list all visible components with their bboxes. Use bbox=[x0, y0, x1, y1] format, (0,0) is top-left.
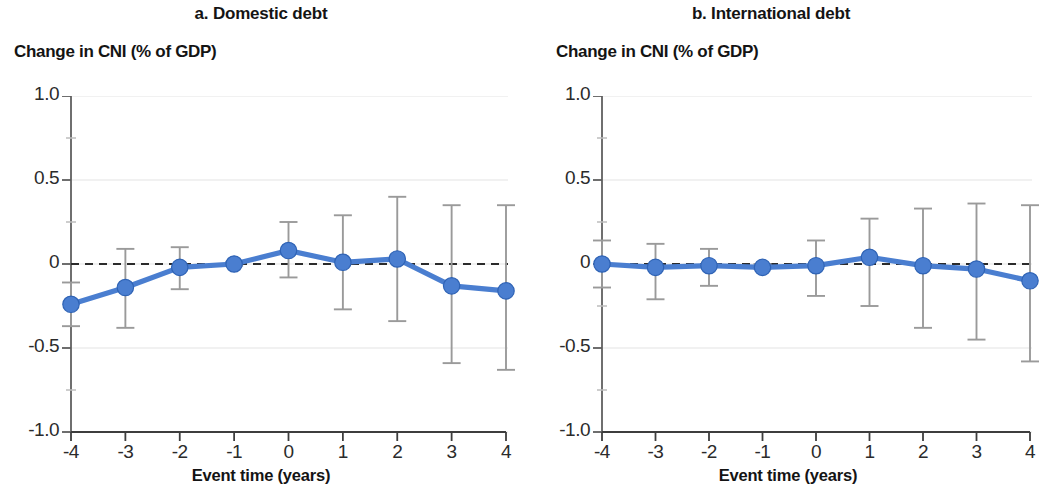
x-tick-label: -1 bbox=[741, 441, 785, 463]
data-point-marker bbox=[754, 259, 770, 275]
y-tick-label: 1.0 bbox=[532, 83, 590, 105]
data-point-marker bbox=[389, 251, 405, 267]
x-tick-label: -3 bbox=[103, 441, 147, 463]
x-tick-label: 1 bbox=[321, 441, 365, 463]
y-tick-label: 0.5 bbox=[1, 167, 59, 189]
y-tick-label: -0.5 bbox=[532, 335, 590, 357]
x-tick-label: -4 bbox=[49, 441, 93, 463]
x-tick-label: -2 bbox=[687, 441, 731, 463]
data-point-marker bbox=[861, 249, 877, 265]
y-tick-label: 0.5 bbox=[532, 167, 590, 189]
data-point-marker bbox=[968, 261, 984, 277]
x-tick-label: -4 bbox=[580, 441, 624, 463]
x-tick-label: 3 bbox=[955, 441, 999, 463]
data-point-marker bbox=[701, 257, 717, 273]
x-tick-label: 1 bbox=[848, 441, 892, 463]
x-tick-label: 2 bbox=[901, 441, 945, 463]
data-point-marker bbox=[226, 256, 242, 272]
data-point-marker bbox=[117, 279, 133, 295]
data-point-marker bbox=[443, 278, 459, 294]
y-tick-label: -0.5 bbox=[1, 335, 59, 357]
y-tick-label: -1.0 bbox=[1, 419, 59, 441]
panel-b-title: b. International debt bbox=[521, 4, 1043, 24]
panel-a-xaxis-label: Event time (years) bbox=[0, 466, 522, 485]
panel-domestic-debt: a. Domestic debt Change in CNI (% of GDP… bbox=[0, 0, 522, 504]
panel-b-axis-title: Change in CNI (% of GDP) bbox=[556, 42, 758, 62]
panel-international-debt: b. International debt Change in CNI (% o… bbox=[521, 0, 1043, 504]
data-point-marker bbox=[594, 256, 610, 272]
data-point-marker bbox=[1022, 273, 1038, 289]
x-tick-label: -2 bbox=[158, 441, 202, 463]
data-point-marker bbox=[63, 296, 79, 312]
data-point-marker bbox=[647, 259, 663, 275]
x-tick-label: 3 bbox=[430, 441, 474, 463]
x-tick-label: 0 bbox=[794, 441, 838, 463]
y-tick-label: 0 bbox=[1, 251, 59, 273]
x-tick-label: -1 bbox=[212, 441, 256, 463]
data-point-marker bbox=[280, 242, 296, 258]
data-point-marker bbox=[915, 257, 931, 273]
x-tick-label: 2 bbox=[375, 441, 419, 463]
x-tick-label: 0 bbox=[267, 441, 311, 463]
figure-event-study-cni: a. Domestic debt Change in CNI (% of GDP… bbox=[0, 0, 1043, 504]
data-point-marker bbox=[498, 283, 514, 299]
panel-a-axis-title: Change in CNI (% of GDP) bbox=[14, 42, 216, 62]
panel-b-xaxis-label: Event time (years) bbox=[533, 466, 1043, 485]
x-tick-label: 4 bbox=[1008, 441, 1043, 463]
panel-a-title: a. Domestic debt bbox=[0, 4, 522, 24]
y-tick-label: 1.0 bbox=[1, 83, 59, 105]
y-tick-label: 0 bbox=[532, 251, 590, 273]
data-point-marker bbox=[335, 254, 351, 270]
y-tick-label: -1.0 bbox=[532, 419, 590, 441]
data-point-marker bbox=[808, 257, 824, 273]
x-tick-label: -3 bbox=[634, 441, 678, 463]
data-point-marker bbox=[172, 259, 188, 275]
